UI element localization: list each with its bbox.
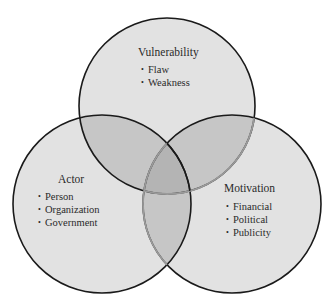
list-item: Political xyxy=(226,213,275,226)
set-motivation: Motivation Financial Political Publicity xyxy=(224,182,275,239)
set-items-motivation: Financial Political Publicity xyxy=(226,200,275,239)
list-item: Person xyxy=(38,190,100,203)
set-title-actor: Actor xyxy=(58,173,100,186)
set-title-vulnerability: Vulnerability xyxy=(138,46,199,59)
list-item: Government xyxy=(38,216,100,229)
list-item: Financial xyxy=(226,200,275,213)
list-item: Flaw xyxy=(141,63,199,76)
set-vulnerability: Vulnerability Flaw Weakness xyxy=(138,46,199,89)
set-items-actor: Person Organization Government xyxy=(38,190,100,229)
set-actor: Actor Person Organization Government xyxy=(38,173,100,229)
list-item: Publicity xyxy=(226,226,275,239)
set-title-motivation: Motivation xyxy=(224,182,275,195)
set-items-vulnerability: Flaw Weakness xyxy=(141,63,199,89)
list-item: Organization xyxy=(38,203,100,216)
list-item: Weakness xyxy=(141,76,199,89)
